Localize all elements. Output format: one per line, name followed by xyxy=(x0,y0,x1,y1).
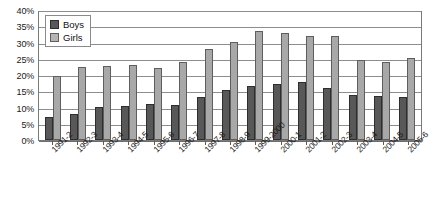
x-label-cell: 2001-2 xyxy=(294,146,319,199)
bar-group xyxy=(116,12,141,140)
plot-area xyxy=(38,11,422,141)
x-label-cell: 1997-8 xyxy=(192,146,217,199)
y-axis-tick-label: 25% xyxy=(0,55,34,64)
bar-girls xyxy=(255,31,263,140)
x-label-cell: 1998-9 xyxy=(217,146,242,199)
bar-girls xyxy=(103,66,111,140)
y-axis-tick-label: 40% xyxy=(0,7,34,16)
x-label-cell: 1994-5 xyxy=(115,146,140,199)
y-axis-tick-label: 30% xyxy=(0,39,34,48)
bar-group xyxy=(167,12,192,140)
x-label-cell: 1993-4 xyxy=(90,146,115,199)
bar-group xyxy=(344,12,369,140)
x-label-cell: 1996-7 xyxy=(166,146,191,199)
legend-swatch-icon xyxy=(50,20,59,29)
y-axis-tick-label: 35% xyxy=(0,23,34,32)
x-label-cell: 1992-3 xyxy=(64,146,89,199)
y-axis-tick-label: 5% xyxy=(0,120,34,129)
x-label-cell: 1999-2000 xyxy=(243,146,268,199)
bar-girls xyxy=(179,62,187,140)
y-axis-tick-label: 0% xyxy=(0,137,34,146)
bar-group xyxy=(217,12,242,140)
bar-group xyxy=(243,12,268,140)
bar-girls xyxy=(53,76,61,140)
y-axis-tick-label: 10% xyxy=(0,104,34,113)
bar-group xyxy=(192,12,217,140)
bar-girls xyxy=(306,36,314,140)
bar-group xyxy=(293,12,318,140)
bars-layer xyxy=(39,12,421,140)
bar-group xyxy=(91,12,116,140)
x-label-cell: 1991-2 xyxy=(39,146,64,199)
legend-label: Girls xyxy=(63,33,83,43)
bar-girls xyxy=(407,58,415,140)
x-axis: 1991-21992-31993-41994-51995-61996-71997… xyxy=(38,146,422,199)
bar-group xyxy=(369,12,394,140)
y-axis-tick-label: 15% xyxy=(0,88,34,97)
y-axis: 40%35%30%25%20%15%10%5%0% xyxy=(0,11,34,141)
bar-group xyxy=(141,12,166,140)
legend-entry-girls: Girls xyxy=(50,32,84,43)
legend-swatch-icon xyxy=(50,33,59,42)
bar-girls xyxy=(78,67,86,140)
bar-girls xyxy=(154,68,162,140)
bar-boys xyxy=(298,82,306,140)
bar-girls xyxy=(357,60,365,140)
bar-group xyxy=(319,12,344,140)
bar-boys xyxy=(45,117,53,140)
bar-girls xyxy=(331,36,339,140)
x-label-cell: 2004-5 xyxy=(370,146,395,199)
x-label-cell: 1995-6 xyxy=(141,146,166,199)
bar-girls xyxy=(230,42,238,140)
y-axis-tick-label: 20% xyxy=(0,72,34,81)
x-label-cell: 2003-4 xyxy=(345,146,370,199)
x-label-cell: 2005-6 xyxy=(396,146,421,199)
x-label-cell: 2002-3 xyxy=(319,146,344,199)
legend-label: Boys xyxy=(63,20,84,30)
x-label-cell: 2000-1 xyxy=(268,146,293,199)
chart-legend: BoysGirls xyxy=(45,15,91,47)
bar-group xyxy=(395,12,420,140)
bar-girls xyxy=(205,49,213,140)
bar-girls xyxy=(382,62,390,140)
bar-girls xyxy=(129,65,137,140)
legend-entry-boys: Boys xyxy=(50,19,84,30)
